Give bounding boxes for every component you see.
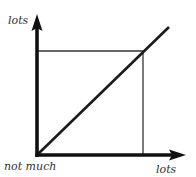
diagram-canvas (0, 0, 196, 177)
diagonal-line (37, 27, 169, 155)
origin-label: not much (4, 160, 56, 173)
x-axis-label: lots (156, 163, 176, 176)
y-axis-label: lots (8, 14, 28, 27)
